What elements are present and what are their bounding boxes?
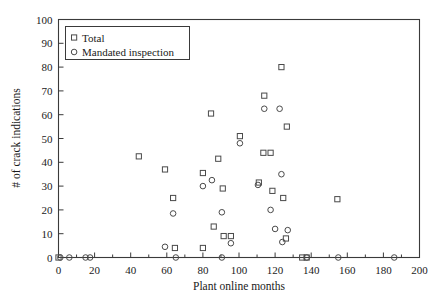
data-point-circle xyxy=(162,244,168,250)
y-tick-label: 10 xyxy=(42,228,54,240)
x-tick-label: 160 xyxy=(339,264,356,276)
data-point-circle xyxy=(237,140,243,146)
y-tick-label: 80 xyxy=(42,61,54,73)
data-point-square xyxy=(172,245,177,250)
y-tick-label: 0 xyxy=(47,252,53,264)
x-tick-label: 80 xyxy=(197,264,209,276)
data-point-circle xyxy=(200,183,206,189)
x-tick-label: 20 xyxy=(89,264,101,276)
y-tick-label: 50 xyxy=(42,133,54,145)
data-point-square xyxy=(284,124,289,129)
data-point-circle xyxy=(228,240,234,246)
x-tick-label: 140 xyxy=(303,264,320,276)
y-tick-label: 20 xyxy=(42,204,54,216)
chart-canvas: 020406080100120140160180200 010203040506… xyxy=(0,0,437,303)
data-point-square xyxy=(208,111,213,116)
data-point-circle xyxy=(285,227,291,233)
data-point-circle xyxy=(268,207,274,213)
x-tick-label: 40 xyxy=(125,264,137,276)
data-point-circle xyxy=(219,209,225,215)
legend-label: Total xyxy=(82,32,104,44)
data-point-square xyxy=(228,233,233,238)
y-tick-label: 30 xyxy=(42,180,54,192)
data-point-square xyxy=(270,188,275,193)
data-point-square xyxy=(162,167,167,172)
y-axis-tick-labels: 0102030405060708090100 xyxy=(36,14,53,264)
data-point-circle xyxy=(170,211,176,217)
legend-label: Mandated inspection xyxy=(82,46,174,58)
data-point-square xyxy=(216,156,221,161)
data-point-circle xyxy=(280,239,286,245)
x-tick-label: 180 xyxy=(375,264,392,276)
x-tick-label: 60 xyxy=(161,264,173,276)
data-point-circle xyxy=(209,177,215,183)
x-tick-label: 0 xyxy=(56,264,62,276)
series-mandated-inspection xyxy=(58,106,398,260)
y-tick-label: 60 xyxy=(42,109,54,121)
scatter-plot-figure: 020406080100120140160180200 010203040506… xyxy=(0,0,437,303)
data-point-square xyxy=(262,93,267,98)
data-point-square xyxy=(136,154,141,159)
x-tick-label: 200 xyxy=(411,264,428,276)
data-point-square xyxy=(335,197,340,202)
data-point-square xyxy=(237,134,242,139)
data-point-square xyxy=(221,233,226,238)
data-point-square xyxy=(281,195,286,200)
series-total xyxy=(56,65,340,261)
data-point-circle xyxy=(272,226,278,232)
data-point-square xyxy=(261,150,266,155)
data-point-circle xyxy=(261,106,267,112)
data-point-group xyxy=(56,65,397,261)
x-axis-label: Plant online months xyxy=(193,280,286,292)
data-point-square xyxy=(211,224,216,229)
data-point-circle xyxy=(279,171,285,177)
y-axis-label: # of crack indications xyxy=(10,88,22,188)
x-axis-tick-labels: 020406080100120140160180200 xyxy=(56,264,429,276)
legend: TotalMandated inspection xyxy=(66,27,190,60)
y-tick-label: 100 xyxy=(36,14,53,26)
y-tick-label: 70 xyxy=(42,85,54,97)
data-point-square xyxy=(268,150,273,155)
data-point-circle xyxy=(277,106,283,112)
y-tick-label: 40 xyxy=(42,156,54,168)
y-axis-ticks xyxy=(59,20,64,258)
data-point-square xyxy=(200,170,205,175)
y-tick-label: 90 xyxy=(42,37,54,49)
data-point-square xyxy=(200,245,205,250)
x-tick-label: 100 xyxy=(231,264,248,276)
x-tick-label: 120 xyxy=(267,264,284,276)
data-point-square xyxy=(279,65,284,70)
data-point-square xyxy=(171,195,176,200)
data-point-square xyxy=(220,186,225,191)
x-axis-ticks xyxy=(59,253,420,258)
